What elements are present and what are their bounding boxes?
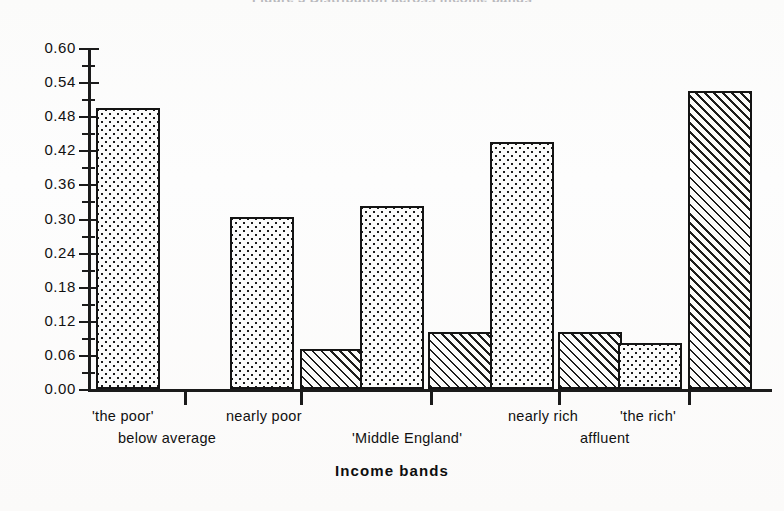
bar-dotted-2 xyxy=(230,217,294,389)
bar-hatched-5 xyxy=(688,91,752,389)
x-axis-tick xyxy=(300,389,303,405)
x-axis-category-label: 'Middle England' xyxy=(352,430,462,446)
x-axis-tick xyxy=(688,389,691,405)
bar-hatched-3 xyxy=(428,332,492,389)
bar-hatched-4 xyxy=(558,332,622,389)
x-axis-category-label: affluent xyxy=(580,430,630,446)
x-axis-category-label: below average xyxy=(118,430,216,446)
bar-dotted-3 xyxy=(360,206,424,389)
x-axis-category-label: nearly rich xyxy=(508,408,578,424)
x-axis-tick xyxy=(558,389,561,405)
bar-dotted-4 xyxy=(490,142,554,389)
x-axis-title: Income bands xyxy=(0,462,784,479)
x-axis-category-label: 'the poor' xyxy=(92,408,154,424)
x-axis-category-label: 'the rich' xyxy=(620,408,676,424)
x-axis-tick xyxy=(184,389,187,405)
bar-chart: 0.600.540.480.420.360.300.240.180.120.06… xyxy=(0,0,784,511)
x-axis-category-label: nearly poor xyxy=(226,408,302,424)
bar-hatched-2 xyxy=(300,349,364,389)
bars-layer xyxy=(0,0,784,391)
x-axis-tick xyxy=(430,389,433,405)
bar-dotted-5 xyxy=(618,343,682,389)
bar-dotted-1 xyxy=(96,108,160,389)
